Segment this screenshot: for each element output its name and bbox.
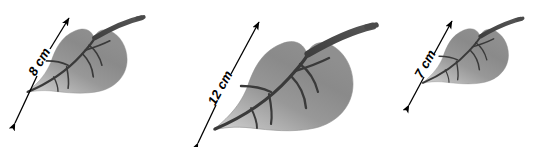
leaf-measurement-figure: 8 cm 12 cm 7 cm xyxy=(0,0,553,147)
